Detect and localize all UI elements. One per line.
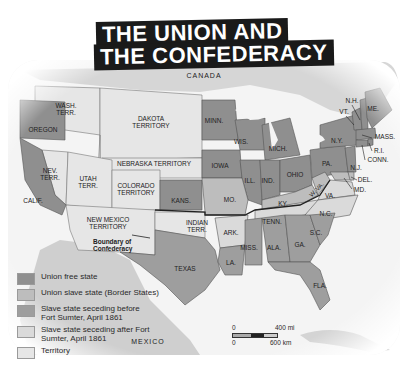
label-calif: CALIF. — [23, 197, 43, 204]
label-iowa: IOWA — [211, 162, 229, 169]
legend-item-seceded-before: Slave state seceding before Fort Sumter,… — [17, 304, 187, 322]
legend-item-seceded-after: Slave state seceding after Fort Sumter, … — [17, 325, 187, 343]
label-new-mexico-terr: TERRITORY — [89, 223, 127, 230]
label-fla: FLA. — [313, 282, 327, 289]
label-ind: IND. — [262, 177, 275, 184]
label-nev-terr: TERR. — [40, 174, 60, 181]
scale-bottom-value: 600 km — [270, 339, 291, 346]
label-nc: N.C. — [320, 210, 333, 217]
label-mo: MO. — [224, 196, 236, 203]
legend-item-territory: Territory — [17, 346, 187, 359]
label-indian-terr: TERR. — [187, 226, 207, 233]
scale-bottom-zero: 0 — [232, 339, 236, 346]
legend-swatch — [17, 305, 35, 317]
label-pa: PA. — [322, 160, 332, 167]
legend-label: Slave state seceding before Fort Sumter,… — [41, 304, 151, 322]
map-legend: Union free state Union slave state (Bord… — [17, 272, 187, 362]
label-kans: KANS. — [171, 197, 191, 204]
label-conn: CONN. — [368, 156, 389, 163]
legend-swatch — [17, 273, 35, 285]
label-nh: N.H. — [346, 97, 359, 104]
label-nj: N.J. — [350, 164, 362, 171]
label-ala: ALA. — [267, 244, 281, 251]
label-md: MD. — [354, 186, 366, 193]
legend-label: Union free state — [41, 272, 97, 281]
label-nev: NEV. — [43, 167, 58, 174]
label-wash-terr: TERR. — [56, 109, 76, 116]
legend-swatch — [17, 347, 35, 359]
scale-bar: 0 400 mi 0 600 km — [231, 324, 311, 354]
label-ga: GA. — [294, 241, 305, 248]
label-miss: MISS. — [240, 244, 258, 251]
label-colorado: COLORADO — [117, 182, 154, 189]
label-dakota: DAKOTA — [138, 115, 165, 122]
label-del: DEL. — [358, 176, 373, 183]
legend-item-union-slave: Union slave state (Border States) — [17, 288, 187, 301]
label-sc: S.C. — [310, 229, 323, 236]
legend-label: Union slave state (Border States) — [41, 288, 159, 297]
scale-top-value: 400 mi — [275, 324, 295, 331]
label-oregon: OREGON — [29, 126, 58, 133]
legend-item-union-free: Union free state — [17, 272, 187, 285]
label-vt: VT. — [339, 108, 349, 115]
label-confederacy: Confederacy — [93, 245, 133, 253]
legend-swatch — [17, 326, 35, 338]
label-colorado-terr: TERRITORY — [117, 189, 155, 196]
label-mich: MICH. — [269, 145, 288, 152]
label-ky: KY. — [278, 200, 288, 207]
label-nebraska: NEBRASKA TERRITORY — [117, 160, 192, 167]
scale-top-zero: 0 — [232, 324, 236, 331]
legend-swatch — [17, 289, 35, 301]
label-new-mexico: NEW MEXICO — [87, 216, 130, 223]
label-ark: ARK. — [223, 229, 238, 236]
label-indian: INDIAN — [186, 219, 208, 226]
label-texas: TEXAS — [174, 265, 196, 272]
legend-label: Territory — [41, 346, 70, 355]
label-wash: WASH. — [55, 102, 76, 109]
label-ri: R.I. — [374, 147, 384, 154]
label-utah: UTAH — [79, 175, 97, 182]
label-va: VA. — [325, 192, 335, 199]
legend-label: Slave state seceding after Fort Sumter, … — [41, 325, 151, 343]
label-utah-terr: TERR. — [78, 182, 98, 189]
label-ny: N.Y. — [331, 137, 343, 144]
label-ill: ILL. — [245, 177, 256, 184]
label-tenn: TENN. — [262, 218, 282, 225]
label-la: LA. — [226, 259, 236, 266]
label-mass: MASS. — [375, 133, 395, 140]
label-minn: MINN. — [205, 117, 224, 124]
label-wis: WIS. — [234, 138, 248, 145]
label-dakota-terr: TERRITORY — [132, 122, 170, 129]
label-ohio: OHIO — [287, 171, 304, 178]
scale-bar-graphic — [232, 333, 278, 338]
label-me: ME. — [367, 105, 379, 112]
label-canada: CANADA — [186, 72, 221, 79]
